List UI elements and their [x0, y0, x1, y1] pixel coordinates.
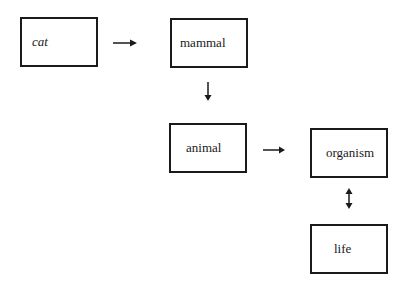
right-arrow-icon: [113, 40, 137, 47]
right-arrow-icon: [263, 147, 285, 154]
edges-layer: [0, 0, 408, 287]
down-arrow-icon: [205, 82, 212, 101]
double-vertical-arrow-icon: [346, 188, 353, 209]
